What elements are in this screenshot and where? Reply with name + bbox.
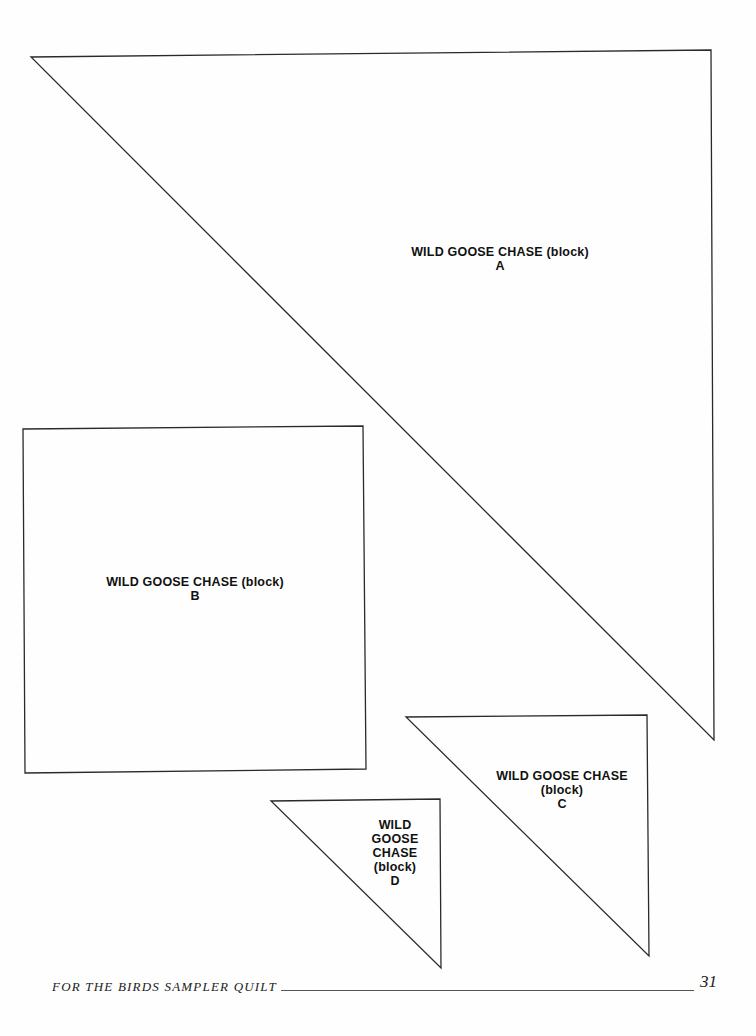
piece-d-label-line-2: GOOSE: [355, 832, 435, 846]
piece-d-label-line-3: CHASE: [355, 846, 435, 860]
footer-book-title: FOR THE BIRDS SAMPLER QUILT: [52, 979, 277, 995]
piece-c-label-line-3: C: [472, 797, 652, 811]
piece-c-label: WILD GOOSE CHASE (block) C: [472, 769, 652, 811]
piece-d-label-line-1: WILD: [355, 818, 435, 832]
piece-c-label-line-2: (block): [472, 783, 652, 797]
piece-d-label-line-4: (block): [355, 860, 435, 874]
piece-b-label: WILD GOOSE CHASE (block) B: [55, 575, 335, 603]
piece-b-label-line-1: WILD GOOSE CHASE (block): [55, 575, 335, 589]
piece-a-label: WILD GOOSE CHASE (block) A: [360, 245, 640, 273]
piece-b-label-line-2: B: [55, 589, 335, 603]
page-number: 31: [700, 972, 717, 992]
footer-rule: [281, 990, 694, 991]
piece-c-triangle: [406, 715, 649, 956]
piece-c-label-line-1: WILD GOOSE CHASE: [472, 769, 652, 783]
piece-d-label-line-5: D: [355, 874, 435, 888]
piece-a-triangle: [31, 50, 714, 740]
piece-a-label-line-2: A: [360, 259, 640, 273]
piece-a-label-line-1: WILD GOOSE CHASE (block): [360, 245, 640, 259]
piece-d-label: WILD GOOSE CHASE (block) D: [355, 818, 435, 888]
pattern-page: WILD GOOSE CHASE (block) A WILD GOOSE CH…: [0, 0, 756, 1036]
